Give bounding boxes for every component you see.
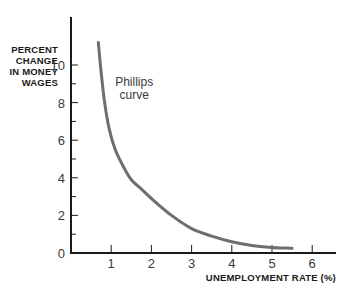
x-axis-title: UNEMPLOYMENT RATE (%) [206,272,336,283]
y-tick-label: 8 [58,96,65,111]
x-tick-label: 3 [188,256,195,271]
y-tick-label: 2 [58,208,65,223]
x-tick-label: 5 [268,256,275,271]
y-tick-label: 4 [58,171,65,186]
annotation-text: curve [120,88,150,102]
x-tick-label: 6 [309,256,316,271]
x-tick-label: 4 [228,256,235,271]
y-tick-label: 0 [58,246,65,261]
y-axis-title-line-1: PERCENT [11,44,58,55]
x-tick-label: 1 [108,256,115,271]
phillips-curve-line [98,42,292,248]
annotation-text: Phillips [115,75,153,89]
y-axis-title-line-4: WAGES [22,77,58,88]
phillips-curve-chart: PERCENT CHANGE IN MONEY WAGES 0246810 12… [0,0,353,294]
x-tick-label: 2 [148,256,155,271]
y-axis-ticks: 0246810 [51,58,78,261]
y-tick-label: 10 [51,58,65,73]
y-tick-label: 6 [58,133,65,148]
phillips-curve-annotation: Phillipscurve [115,75,153,102]
